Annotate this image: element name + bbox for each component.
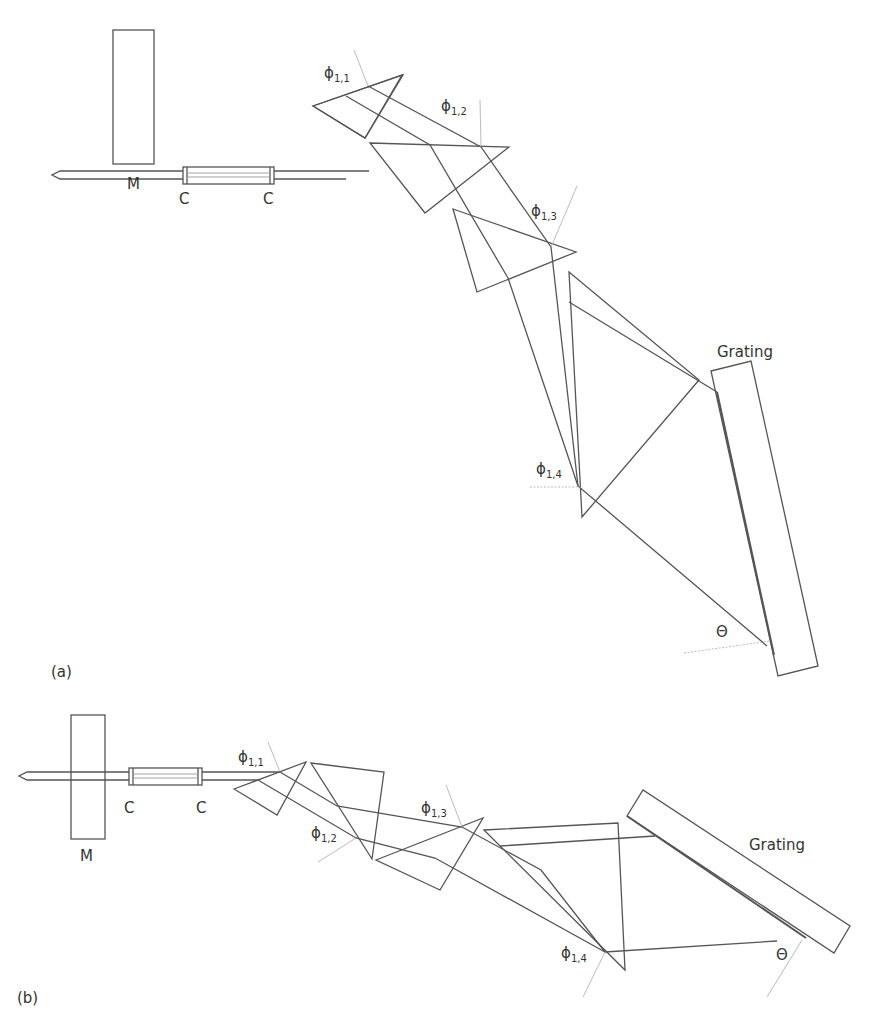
- prism-3-b: [376, 818, 483, 890]
- prism-2-b: [311, 763, 384, 859]
- gain-cell-b: [129, 768, 202, 785]
- angle-phi-1-4-a: ϕ1,4: [536, 460, 562, 480]
- angle-phi-1-2-a: ϕ1,2: [441, 97, 467, 117]
- panel-a: M C C Grating: [51, 30, 818, 681]
- angle-phi-1-3-a: ϕ1,3: [531, 202, 557, 222]
- output-mirror-a: [113, 30, 154, 164]
- angle-theta-b: Θ: [776, 946, 788, 964]
- mirror-label-b: M: [80, 847, 93, 865]
- output-mirror-b: [71, 715, 105, 839]
- prism-3-a: [453, 209, 576, 292]
- prism-1-a-outline: [313, 75, 403, 138]
- panel-b: M C C Grating ϕ1,1 ϕ1,2: [17, 715, 850, 1007]
- angle-phi-1-1-a: ϕ1,1: [324, 64, 350, 84]
- laser-cavity-diagram: M C C Grating: [0, 0, 874, 1025]
- panel-label-a: (a): [51, 663, 72, 681]
- angle-phi-1-4-b: ϕ1,4: [561, 944, 587, 964]
- beam-upper-b: [280, 772, 777, 952]
- angle-theta-a: Θ: [716, 623, 728, 641]
- grating-label-a: Grating: [717, 343, 773, 361]
- gain-cell-a: [183, 167, 274, 184]
- beam-lower-a: [346, 96, 578, 486]
- cell-label-right-b: C: [196, 799, 206, 817]
- mirror-label-a: M: [127, 175, 140, 193]
- cell-label-left-b: C: [124, 799, 134, 817]
- angle-phi-1-1-b: ϕ1,1: [238, 748, 264, 768]
- beam-lower-b: [258, 780, 605, 952]
- grating-label-b: Grating: [749, 836, 805, 854]
- panel-label-b: (b): [17, 989, 38, 1007]
- prism-1-b: [234, 762, 306, 815]
- output-beam-b: [19, 772, 129, 780]
- angle-phi-1-2-b: ϕ1,2: [311, 824, 337, 844]
- cell-label-right-a: C: [263, 190, 273, 208]
- grating-b: [627, 790, 850, 953]
- cell-label-left-a: C: [179, 190, 189, 208]
- beam-upper-a: [368, 86, 767, 646]
- output-beam-a: [52, 171, 183, 179]
- angle-phi-1-3-b: ϕ1,3: [421, 799, 447, 819]
- prism-4-a: [569, 272, 699, 517]
- prism-1-a: [313, 75, 402, 138]
- prism-2-a: [370, 143, 509, 213]
